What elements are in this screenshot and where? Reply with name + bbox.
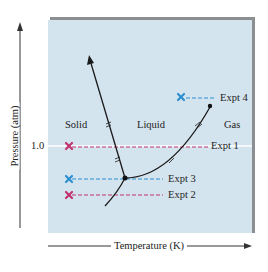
y-tick-one-atm: 1.0	[31, 141, 44, 152]
region-label-gas: Gas	[224, 120, 240, 131]
expt-3-label: Expt 3	[168, 174, 196, 185]
x-axis-label: Temperature (K)	[111, 240, 187, 251]
expt-2-x-icon	[66, 192, 72, 198]
triple-point	[123, 176, 128, 181]
critical-point	[208, 104, 212, 108]
region-label-solid: Solid	[65, 120, 87, 131]
y-axis-label: Pressure (atm)	[9, 103, 20, 170]
expt-2-label: Expt 2	[168, 190, 196, 201]
expt-4-label: Expt 4	[220, 93, 248, 104]
arrow-up-icon	[87, 55, 94, 65]
expt-3-x-icon	[66, 176, 72, 182]
liquid-gas-curve	[125, 107, 210, 178]
expt-1-label: Expt 1	[211, 141, 239, 152]
region-label-liquid: Liquid	[137, 120, 165, 131]
solid-gas-curve	[105, 178, 125, 206]
phase-diagram-graphics	[0, 0, 268, 272]
expt-4-x-icon	[178, 94, 184, 100]
